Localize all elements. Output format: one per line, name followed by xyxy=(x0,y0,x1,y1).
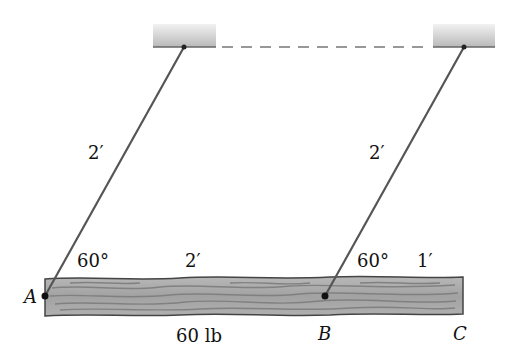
cable-A xyxy=(45,47,184,296)
cable-A-length-label: 2′ xyxy=(88,142,104,163)
point-A-label: A xyxy=(24,286,37,307)
segment-BC-length-label: 1′ xyxy=(417,250,433,271)
beam-weight-label: 60 lb xyxy=(176,325,222,346)
right-ceiling-support xyxy=(433,24,495,47)
point-C-label: C xyxy=(453,323,467,344)
wooden-beam xyxy=(45,276,463,316)
point-B-dot xyxy=(322,293,329,300)
angle-B-label: 60° xyxy=(357,250,389,271)
cable-B xyxy=(325,47,464,296)
support-pin-right xyxy=(462,45,467,50)
segment-AB-length-label: 2′ xyxy=(185,250,201,271)
point-B-label: B xyxy=(318,323,331,344)
diagram-graphics xyxy=(0,0,507,361)
beam-diagram: 2′ 2′ 60° 60° 2′ 1′ A B C 60 lb xyxy=(0,0,507,361)
point-A-dot xyxy=(42,293,49,300)
angle-A-label: 60° xyxy=(77,250,109,271)
support-pin-left xyxy=(182,45,187,50)
left-ceiling-support xyxy=(153,24,216,47)
cable-B-length-label: 2′ xyxy=(369,142,385,163)
